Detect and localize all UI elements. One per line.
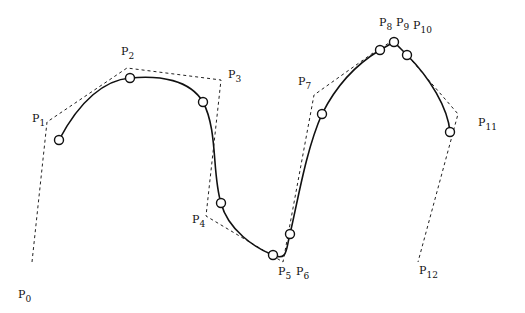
knot-circle-icon xyxy=(318,110,327,119)
knot-circle-icon xyxy=(286,230,295,239)
control-point-label: P4 xyxy=(192,213,205,229)
control-point-label: P9 xyxy=(396,16,409,32)
knot-circle-icon xyxy=(403,51,412,60)
control-point-label: P1 xyxy=(32,112,45,128)
knot-circle-icon xyxy=(376,46,385,55)
knot-circle-icon xyxy=(217,199,226,208)
control-point-labels: P0P1P2P3P4P5P6P7P8P9P10P11P12 xyxy=(18,16,497,304)
knot-circle-icon xyxy=(55,136,64,145)
control-point-label: P5 xyxy=(278,265,291,281)
control-point-label: P8 xyxy=(379,16,392,32)
control-point-label: P2 xyxy=(121,45,134,61)
control-point-label: P10 xyxy=(413,19,432,35)
control-point-label: P0 xyxy=(18,288,31,304)
control-point-label: P3 xyxy=(228,68,241,84)
control-point-label: P11 xyxy=(478,116,497,132)
knot-circle-icon xyxy=(390,38,399,47)
knot-circle-icon xyxy=(126,74,135,83)
knot-circle-icon xyxy=(199,98,208,107)
bspline-diagram: P0P1P2P3P4P5P6P7P8P9P10P11P12 xyxy=(0,0,525,313)
knot-markers xyxy=(55,38,455,260)
control-polygon xyxy=(32,41,458,262)
knot-circle-icon xyxy=(269,251,278,260)
control-point-label: P6 xyxy=(296,265,309,281)
spline-curve xyxy=(59,42,450,257)
control-point-label: P12 xyxy=(419,264,438,280)
control-point-label: P7 xyxy=(298,75,311,91)
knot-circle-icon xyxy=(446,128,455,137)
